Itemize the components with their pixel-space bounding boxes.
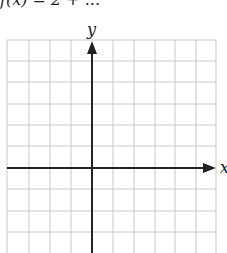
coordinate-grid (0, 0, 227, 253)
x-axis-label: x (220, 158, 227, 177)
y-axis-label: y (87, 20, 96, 39)
grid-lines (7, 40, 216, 253)
y-axis-arrow-icon (87, 41, 97, 54)
x-axis-arrow-icon (203, 163, 216, 173)
